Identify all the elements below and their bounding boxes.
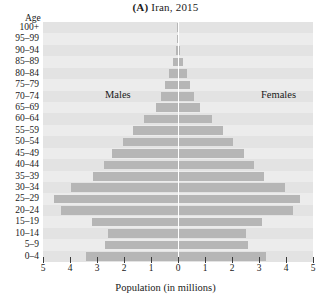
x-tick-label: 4 (276, 263, 296, 273)
bar-females-75–79 (178, 81, 190, 90)
bar-males-75–79 (165, 81, 178, 90)
y-tick-label: 5–9 (25, 239, 39, 250)
series-label-males: Males (105, 89, 131, 100)
bar-males-35–39 (93, 172, 178, 181)
y-tick-label: 50–54 (15, 136, 39, 147)
bar-females-10–14 (178, 229, 246, 238)
bar-males-60–64 (144, 115, 178, 124)
x-tick-label: 3 (249, 263, 269, 273)
y-tick-label: 40–44 (15, 159, 39, 170)
x-tick-label: 3 (87, 263, 107, 273)
bar-females-15–19 (178, 218, 262, 227)
bar-males-30–34 (71, 183, 178, 192)
bar-males-65–69 (156, 103, 178, 112)
panel-letter: (A) (132, 1, 148, 13)
bar-males-20–24 (61, 206, 178, 215)
y-tick-label: 85–89 (15, 56, 39, 67)
center-axis-line (178, 22, 179, 262)
bar-females-65–69 (178, 103, 200, 112)
y-tick-label: 55–59 (15, 125, 39, 136)
bar-males-70–74 (161, 92, 178, 101)
y-tick-label: 20–24 (15, 205, 39, 216)
x-tick-label: 2 (222, 263, 242, 273)
bar-females-40–44 (178, 161, 254, 170)
y-tick-label: 90–94 (15, 45, 39, 56)
chart-title-text: Iran, 2015 (148, 1, 198, 13)
bar-males-15–19 (92, 218, 178, 227)
bar-females-70–74 (178, 92, 194, 101)
y-tick-label: 70–74 (15, 91, 39, 102)
x-tick-label: 5 (303, 263, 323, 273)
y-tick-label: 30–34 (15, 182, 39, 193)
y-tick-label: 95–99 (15, 33, 39, 44)
y-tick-label: 45–49 (15, 148, 39, 159)
bar-males-5–9 (105, 241, 178, 250)
bar-males-25–29 (54, 195, 178, 204)
y-tick-label: 100+ (19, 22, 39, 33)
bar-females-45–49 (178, 149, 244, 158)
y-tick-label: 60–64 (15, 113, 39, 124)
bar-males-45–49 (112, 149, 178, 158)
bar-females-85–89 (178, 58, 183, 67)
bar-females-60–64 (178, 115, 212, 124)
bar-males-40–44 (104, 161, 178, 170)
y-tick-label: 15–19 (15, 216, 39, 227)
y-axis-tick-labels: 100+95–9990–9485–8980–8475–7970–7465–696… (0, 22, 41, 262)
y-tick-label: 35–39 (15, 171, 39, 182)
bar-females-30–34 (178, 183, 285, 192)
x-tick-label: 1 (141, 263, 161, 273)
bar-females-25–29 (178, 195, 300, 204)
y-tick-label: 80–84 (15, 68, 39, 79)
plot-area: Males Females (43, 22, 313, 262)
x-tick-label: 4 (60, 263, 80, 273)
y-tick-label: 25–29 (15, 193, 39, 204)
x-tick-label: 0 (168, 263, 188, 273)
bar-females-20–24 (178, 206, 293, 215)
bar-females-5–9 (178, 241, 248, 250)
population-pyramid-chart: (A) Iran, 2015 Age Males Females 100+95–… (0, 0, 331, 303)
x-tick-label: 1 (195, 263, 215, 273)
y-tick-label: 65–69 (15, 102, 39, 113)
bar-males-10–14 (108, 229, 178, 238)
y-tick-label: 0–4 (25, 251, 39, 262)
x-axis-tick-labels: 54321012345 (0, 263, 331, 277)
bar-females-35–39 (178, 172, 264, 181)
bar-males-55–59 (133, 126, 178, 135)
bar-females-55–59 (178, 126, 223, 135)
series-label-females: Females (261, 89, 296, 100)
x-tick-label: 5 (33, 263, 53, 273)
bar-females-50–54 (178, 138, 233, 147)
y-tick-label: 75–79 (15, 79, 39, 90)
chart-title: (A) Iran, 2015 (0, 1, 331, 13)
bar-females-80–84 (178, 69, 187, 78)
x-axis-title: Population (in millions) (0, 282, 331, 293)
x-tick-label: 2 (114, 263, 134, 273)
y-tick-label: 10–14 (15, 228, 39, 239)
bar-males-50–54 (123, 138, 178, 147)
